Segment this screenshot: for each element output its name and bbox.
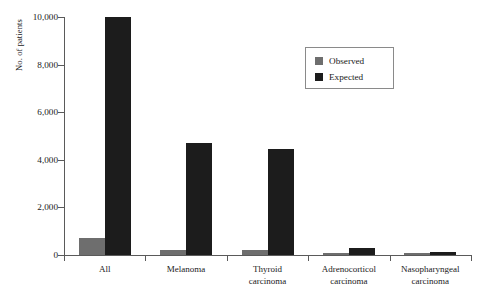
x-tick-mark: [64, 255, 65, 261]
x-axis-label-line: carcinoma: [382, 276, 477, 288]
bar-expected: [349, 248, 375, 255]
x-tick-mark: [471, 255, 472, 261]
legend-label-expected: Expected: [329, 72, 363, 82]
x-tick-mark: [227, 255, 228, 261]
y-tick-label: 8,000: [6, 60, 58, 70]
legend-label-observed: Observed: [329, 56, 364, 66]
legend-swatch-expected-icon: [315, 73, 323, 81]
y-tick-label: 10,000: [6, 12, 58, 22]
y-tick-label: 6,000: [6, 107, 58, 117]
chart-legend: Observed Expected: [305, 47, 394, 89]
x-tick-mark: [308, 255, 309, 261]
y-tick-label: 4,000: [6, 155, 58, 165]
plot-area: [64, 17, 471, 255]
x-tick-mark: [390, 255, 391, 261]
bar-chart: No. of patients 02,0004,0006,0008,00010,…: [0, 0, 477, 308]
legend-item-observed: Observed: [315, 53, 393, 69]
x-axis-label: Nasopharyngealcarcinoma: [382, 264, 477, 287]
y-tick-label: 2,000: [6, 202, 58, 212]
x-axis-label-line: Nasopharyngeal: [382, 264, 477, 276]
bar-expected: [105, 17, 131, 255]
x-axis-line: [64, 255, 471, 256]
x-tick-mark: [145, 255, 146, 261]
legend-item-expected: Expected: [315, 69, 393, 85]
bar-observed: [79, 238, 105, 255]
bar-expected: [186, 143, 212, 255]
bar-expected: [268, 149, 294, 255]
y-tick-label: 0: [6, 250, 58, 260]
legend-swatch-observed-icon: [315, 57, 323, 65]
